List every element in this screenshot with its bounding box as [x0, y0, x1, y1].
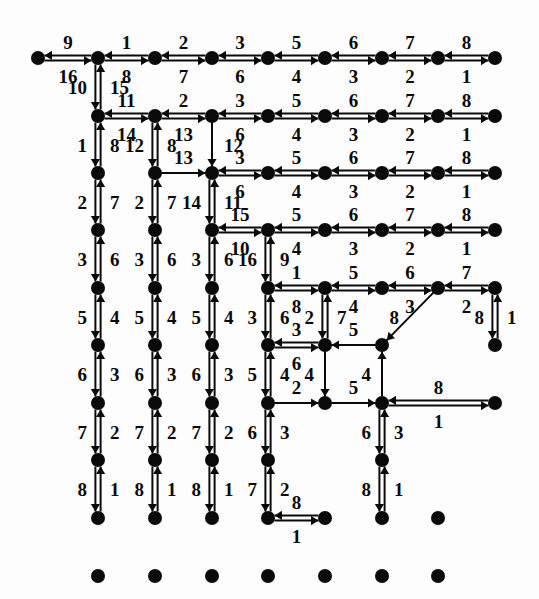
graph-node[interactable] [148, 338, 162, 352]
edge-label-forward: 6 [135, 364, 145, 385]
graph-node[interactable] [375, 51, 389, 65]
graph-node[interactable] [318, 511, 332, 525]
graph-node[interactable] [205, 281, 219, 295]
graph-node[interactable] [431, 569, 445, 583]
graph-node[interactable] [375, 223, 389, 237]
graph-node[interactable] [375, 569, 389, 583]
graph-node[interactable] [205, 453, 219, 467]
graph-node[interactable] [148, 569, 162, 583]
graph-node[interactable] [91, 453, 105, 467]
graph-node[interactable] [318, 223, 332, 237]
graph-node[interactable] [431, 51, 445, 65]
graph-node[interactable] [261, 166, 275, 180]
graph-node[interactable] [91, 396, 105, 410]
graph-node[interactable] [148, 51, 162, 65]
graph-node[interactable] [205, 51, 219, 65]
graph-node[interactable] [318, 166, 332, 180]
graph-node[interactable] [91, 166, 105, 180]
edge-label-forward: 2 [179, 32, 189, 53]
graph-node[interactable] [431, 223, 445, 237]
edge-label-reverse: 4 [167, 307, 177, 328]
arrowhead-icon [141, 56, 149, 65]
arrowhead-icon [445, 281, 453, 290]
graph-node[interactable] [261, 109, 275, 123]
graph-node[interactable] [375, 281, 389, 295]
graph-node[interactable] [488, 166, 502, 180]
edge-label-forward: 5 [292, 147, 302, 168]
graph-node[interactable] [318, 569, 332, 583]
arrowhead-icon [375, 446, 384, 454]
graph-node[interactable] [91, 569, 105, 583]
graph-node[interactable] [375, 396, 389, 410]
graph-node[interactable] [318, 396, 332, 410]
graph-node[interactable] [91, 338, 105, 352]
graph-node[interactable] [431, 511, 445, 525]
graph-node[interactable] [148, 396, 162, 410]
graph-node[interactable] [318, 281, 332, 295]
edge-label-forward: 2 [179, 90, 189, 111]
edge-label-forward: 8 [390, 307, 400, 328]
graph-node[interactable] [431, 166, 445, 180]
graph-node[interactable] [261, 281, 275, 295]
graph-node[interactable] [261, 338, 275, 352]
graph-node[interactable] [375, 453, 389, 467]
edge-label-forward: 5 [292, 90, 302, 111]
graph-node[interactable] [91, 223, 105, 237]
edge-label-reverse: 6 [292, 353, 302, 374]
edge-label-forward: 5 [135, 307, 145, 328]
graph-node[interactable] [31, 51, 45, 65]
edge-label-reverse: 6 [110, 249, 120, 270]
arrowhead-icon [261, 389, 270, 397]
graph-node[interactable] [91, 281, 105, 295]
graph-node[interactable] [148, 223, 162, 237]
arrowhead-icon [148, 216, 157, 224]
graph-node[interactable] [375, 109, 389, 123]
graph-node[interactable] [205, 166, 219, 180]
edge-label-forward: 8 [78, 479, 88, 500]
graph-node[interactable] [148, 511, 162, 525]
graph-node[interactable] [318, 109, 332, 123]
graph-node[interactable] [375, 511, 389, 525]
graph-node[interactable] [91, 51, 105, 65]
graph-node[interactable] [318, 338, 332, 352]
graph-node[interactable] [148, 453, 162, 467]
graph-node[interactable] [261, 511, 275, 525]
arrowhead-icon [275, 223, 283, 232]
graph-node[interactable] [205, 511, 219, 525]
graph-node[interactable] [488, 338, 502, 352]
graph-node[interactable] [205, 109, 219, 123]
graph-node[interactable] [375, 166, 389, 180]
graph-node[interactable] [148, 109, 162, 123]
graph-node[interactable] [205, 338, 219, 352]
graph-node[interactable] [205, 569, 219, 583]
arrowhead-icon [148, 389, 157, 397]
graph-node[interactable] [261, 51, 275, 65]
graph-node[interactable] [205, 396, 219, 410]
edge-label-reverse: 1 [292, 526, 302, 547]
graph-node[interactable] [148, 166, 162, 180]
arrowhead-icon [311, 228, 319, 237]
graph-node[interactable] [488, 223, 502, 237]
edge-label-reverse: 7 [179, 66, 189, 87]
graph-node[interactable] [261, 453, 275, 467]
arrowhead-icon [153, 237, 162, 245]
graph-node[interactable] [318, 51, 332, 65]
graph-node[interactable] [261, 396, 275, 410]
graph-node[interactable] [91, 109, 105, 123]
graph-node[interactable] [488, 109, 502, 123]
graph-node[interactable] [148, 281, 162, 295]
graph-node[interactable] [488, 396, 502, 410]
graph-node[interactable] [375, 338, 389, 352]
graph-node[interactable] [488, 281, 502, 295]
graph-node[interactable] [431, 281, 445, 295]
arrowhead-icon [96, 295, 105, 303]
graph-node[interactable] [431, 109, 445, 123]
graph-node[interactable] [488, 51, 502, 65]
graph-node[interactable] [261, 569, 275, 583]
graph-node[interactable] [261, 223, 275, 237]
arrowhead-icon [210, 410, 219, 418]
graph-node[interactable] [91, 511, 105, 525]
arrowhead-icon [368, 286, 376, 295]
arrowhead-icon [275, 511, 283, 520]
graph-node[interactable] [205, 223, 219, 237]
